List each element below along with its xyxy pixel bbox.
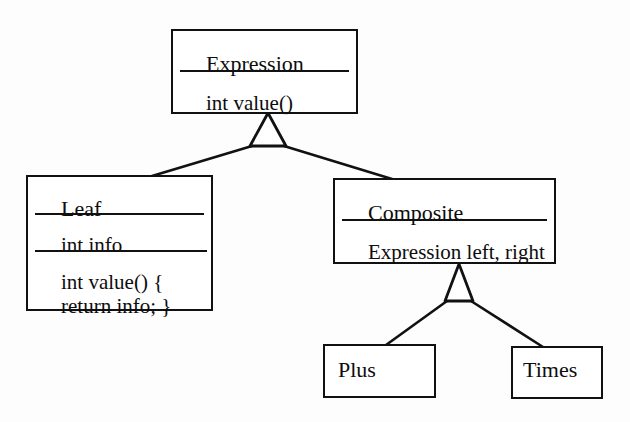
class-operation-expression-value: int value() [206,91,293,115]
class-name-compartment-composite: Composite [335,180,554,221]
generalization-composite [386,264,543,347]
class-name-times: Times [513,348,601,383]
class-attributes-compartment-leaf: int info [28,215,211,252]
class-operations-compartment-expression: int value() [173,72,356,113]
class-name-compartment-expression: Expression [173,31,356,72]
class-name-compartment-leaf: Leaf [28,177,211,215]
class-box-leaf[interactable]: Leaf int info int value() { return info;… [26,175,213,311]
class-box-expression[interactable]: Expression int value() [171,29,358,114]
class-attributes-compartment-composite: Expression left, right [335,221,554,262]
class-box-times[interactable]: Times [511,346,603,399]
class-box-plus[interactable]: Plus [323,344,436,398]
uml-class-diagram: Expression int value() Leaf int info int… [0,0,630,422]
class-operation-leaf-value-signature: int value() { [61,270,163,294]
class-box-composite[interactable]: Composite Expression left, right [333,178,556,264]
class-name-plus: Plus [325,346,434,383]
class-operation-leaf-value-body: return info; } [61,294,171,318]
class-attribute-composite-children: Expression left, right [368,240,545,264]
class-operations-compartment-leaf: int value() { return info; } [28,252,211,309]
